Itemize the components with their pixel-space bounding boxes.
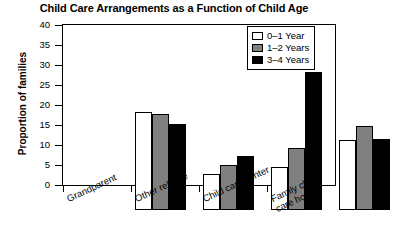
chart-title: Child Care Arrangements as a Function of…	[0, 2, 348, 15]
bar	[373, 139, 390, 210]
y-axis-tick-mark	[55, 185, 62, 186]
y-axis-tick-mark	[55, 25, 62, 26]
y-axis-tick-mark	[55, 105, 62, 106]
legend-item: 0–1 Year	[252, 30, 309, 42]
y-axis-tick-label: 0	[45, 178, 50, 191]
legend-label: 3–4 Years	[267, 54, 309, 66]
legend-swatch	[252, 44, 263, 52]
y-axis-tick: 30	[0, 65, 62, 66]
y-axis-tick-mark	[55, 145, 62, 146]
y-axis-title: Proportion of families	[17, 29, 28, 179]
y-axis-tick-label: 40	[39, 18, 50, 31]
x-axis-tick-mark	[63, 186, 64, 192]
y-axis-tick: 0	[0, 185, 62, 186]
y-axis-tick: 25	[0, 85, 62, 86]
y-axis-tick: 40	[0, 25, 62, 26]
chart-legend: 0–1 Year1–2 Years3–4 Years	[247, 26, 315, 70]
bar	[339, 140, 356, 210]
y-axis-tick-label: 5	[45, 158, 50, 171]
y-axis-tick: 10	[0, 145, 62, 146]
y-axis-tick: 35	[0, 45, 62, 46]
y-axis-tick-label: 10	[39, 138, 50, 151]
y-axis-tick-mark	[55, 125, 62, 126]
bar	[356, 126, 373, 210]
y-axis-tick: 5	[0, 165, 62, 166]
legend-swatch	[252, 56, 263, 64]
y-axis-tick-mark	[55, 65, 62, 66]
legend-swatch	[252, 32, 263, 40]
y-axis-tick-label: 35	[39, 38, 50, 51]
legend-item: 1–2 Years	[252, 42, 309, 54]
bar	[169, 124, 186, 210]
legend-label: 0–1 Year	[267, 30, 305, 42]
legend-item: 3–4 Years	[252, 54, 309, 66]
y-axis-tick: 15	[0, 125, 62, 126]
y-axis-tick-label: 30	[39, 58, 50, 71]
y-axis-tick: 20	[0, 105, 62, 106]
y-axis-tick-label: 20	[39, 98, 50, 111]
y-axis-tick-label: 15	[39, 118, 50, 131]
y-axis-tick-label: 25	[39, 78, 50, 91]
legend-label: 1–2 Years	[267, 42, 309, 54]
y-axis-tick-mark	[55, 45, 62, 46]
y-axis-tick-mark	[55, 165, 62, 166]
y-axis-tick-mark	[55, 85, 62, 86]
